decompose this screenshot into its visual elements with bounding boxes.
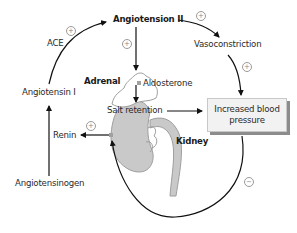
kidney-label: Kidney <box>176 137 208 146</box>
increased-blood-pressure-box: Increased blood pressure <box>207 98 287 132</box>
raas-diagram: Angiotension II ACE Angiotensin I Renin … <box>0 0 297 233</box>
adrenal-label: Adrenal <box>84 77 120 86</box>
plus-sign-icon: + <box>242 62 252 72</box>
plus-sign-icon: + <box>66 26 76 36</box>
aldosterone-label: Aldosterone <box>143 79 192 88</box>
bp-line-2: pressure <box>229 115 265 126</box>
bp-line-1: Increased blood <box>214 104 279 115</box>
ace-label: ACE <box>47 39 64 48</box>
minus-sign-icon: − <box>244 177 254 187</box>
plus-sign-icon: + <box>122 39 132 49</box>
angiotensin-i-label: Angiotensin I <box>22 88 76 97</box>
plus-sign-icon: + <box>196 11 206 21</box>
plus-sign-icon: + <box>86 121 96 131</box>
kidney-shape <box>111 101 181 196</box>
renin-label: Renin <box>53 131 76 140</box>
angiotensin-ii-label: Angiotension II <box>113 15 183 24</box>
angiotensinogen-label: Angiotensinogen <box>15 179 84 188</box>
salt-retention-label: Salt retention <box>107 106 163 115</box>
vasoconstriction-label: Vasoconstriction <box>194 40 261 49</box>
